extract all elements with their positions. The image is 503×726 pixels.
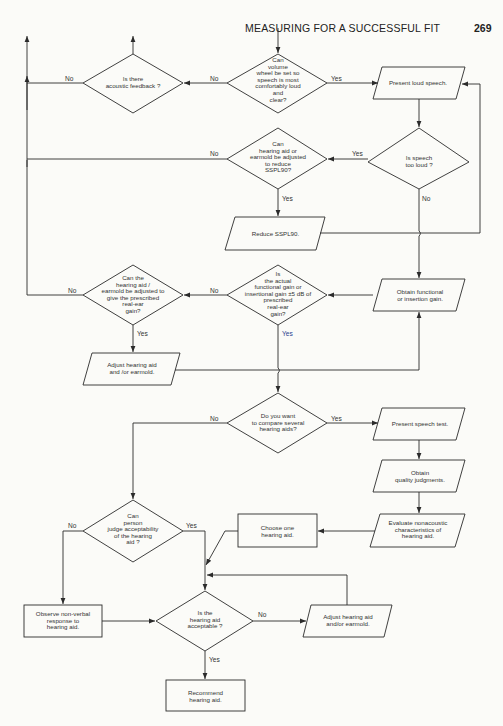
edge-label-yes: Yes (137, 330, 148, 337)
edge-label-no: No (65, 75, 73, 82)
node-reduce-sspl90: Reduce SSPL90. (233, 231, 318, 238)
edge-label-yes: Yes (282, 330, 293, 337)
node-quality-judgments: Obtain quality judgments. (378, 470, 462, 483)
edge-label-yes: Yes (282, 195, 293, 202)
node-adjust-aid-2: Adjust hearing aid and/or earmold. (308, 614, 388, 627)
edge-label-yes: Yes (209, 656, 220, 663)
node-recommend: Recommend hearing aid. (168, 690, 243, 703)
edge-label-yes: Yes (186, 522, 197, 529)
node-obtain-gain: Obtain functional or insertion gain. (378, 289, 462, 302)
node-volume-wheel: Can volume wheel be set so speech is mos… (238, 57, 318, 103)
node-judge-acceptability: Can person judge acceptability of the he… (88, 513, 178, 546)
node-observe-nonverbal: Observe non-verbal response to hearing a… (25, 611, 101, 631)
edge-label-no: No (210, 150, 218, 157)
edge-label-no: No (210, 287, 218, 294)
node-choose-one: Choose one hearing aid. (240, 525, 315, 538)
node-gain-within: Is the actual functional gain or inserti… (228, 271, 328, 317)
edge-label-no: No (68, 522, 76, 529)
node-adjust-aid-1: Adjust hearing aid and /or earmold. (90, 362, 174, 375)
node-present-speech-test: Present speech test. (378, 421, 462, 428)
node-aid-acceptable: Is the hearing aid acceptable ? (168, 610, 242, 630)
edge-label-yes: Yes (352, 150, 363, 157)
edge-label-no: No (422, 195, 430, 202)
node-adjust-sspl90: Can hearing aid or earmold be adjusted t… (236, 141, 320, 174)
edge-label-yes: Yes (331, 75, 342, 82)
edge-label-yes: Yes (331, 415, 342, 422)
edge-label-no: No (258, 611, 266, 618)
node-can-adjust-gain: Can the hearing aid / earmold be adjuste… (83, 275, 183, 315)
node-acoustic-feedback: Is there acoustic feedback ? (93, 76, 173, 89)
node-present-loud-speech: Present loud speech. (378, 80, 458, 87)
node-compare-aids: Do you want to compare several hearing a… (236, 413, 320, 433)
edge-label-no: No (210, 75, 218, 82)
node-speech-too-loud: Is speech too loud ? (379, 155, 459, 168)
node-evaluate-nonacoustic: Evaluate nonacoustic characteristics of … (374, 520, 462, 540)
edge-label-no: No (68, 287, 76, 294)
edge-label-no: No (210, 415, 218, 422)
